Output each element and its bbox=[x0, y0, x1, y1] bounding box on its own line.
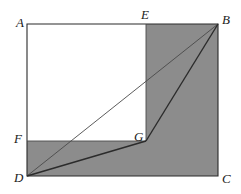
geometry-figure: A B C D E F G bbox=[0, 0, 241, 194]
vertex-label-c: C bbox=[222, 172, 231, 185]
white-region-rectangle-aegf bbox=[27, 24, 146, 141]
vertex-label-d: D bbox=[14, 171, 23, 184]
vertex-label-a: A bbox=[16, 16, 24, 29]
vertex-label-g: G bbox=[134, 130, 143, 143]
vertex-label-f: F bbox=[14, 132, 22, 145]
figure-canvas bbox=[0, 0, 241, 194]
vertex-label-e: E bbox=[141, 8, 149, 21]
vertex-label-b: B bbox=[222, 13, 230, 26]
